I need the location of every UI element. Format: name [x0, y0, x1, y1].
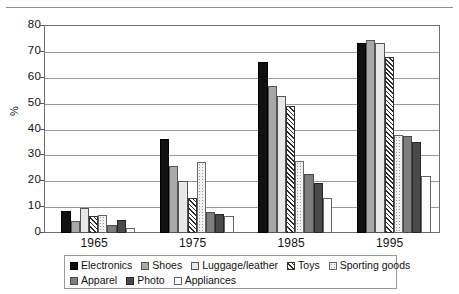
legend-label: Photo — [137, 275, 164, 286]
bar-group-1985 — [258, 26, 332, 233]
bar-1985-apparel — [304, 174, 313, 234]
x-axis-label-1965: 1965 — [45, 236, 144, 250]
legend-item-electronics[interactable]: Electronics — [70, 260, 132, 271]
y-tick-label-10: 10 — [1, 200, 41, 211]
legend-item-toys[interactable]: Toys — [287, 260, 320, 271]
bar-1975-electronics — [160, 139, 169, 233]
bar-1965-sporting-goods — [98, 215, 107, 233]
bar-group-1975 — [160, 26, 234, 233]
legend-swatch-icon — [141, 262, 149, 270]
bar-1965-photo — [117, 220, 126, 233]
legend-item-appliances[interactable]: Appliances — [174, 275, 236, 286]
bar-1975-appliances — [224, 216, 233, 233]
chart-legend: ElectronicsShoesLuggage/leatherToysSport… — [64, 255, 397, 289]
legend-swatch-icon — [174, 277, 182, 285]
legend-label: Luggage/leather — [202, 260, 278, 271]
legend-label: Sporting goods — [340, 260, 411, 271]
bar-1985-luggage-leather — [277, 96, 286, 233]
legend-label: Appliances — [185, 275, 236, 286]
bar-1965-appliances — [126, 228, 135, 233]
bar-1995-apparel — [403, 136, 412, 233]
legend-label: Electronics — [81, 260, 132, 271]
x-axis-label-1985: 1985 — [242, 236, 341, 250]
legend-item-luggage-leather[interactable]: Luggage/leather — [191, 260, 278, 271]
legend-row-1: ElectronicsShoesLuggage/leatherToysSport… — [70, 258, 392, 273]
bar-1965-toys — [89, 216, 98, 233]
bar-1965-apparel — [107, 225, 116, 233]
bar-1985-photo — [314, 183, 323, 233]
y-tick-label-70: 70 — [1, 45, 41, 56]
bar-1965-luggage-leather — [80, 208, 89, 233]
legend-item-shoes[interactable]: Shoes — [141, 260, 182, 271]
legend-label: Apparel — [81, 275, 117, 286]
top-divider — [6, 7, 453, 8]
bar-1975-luggage-leather — [178, 181, 187, 233]
legend-row-2: ApparelPhotoAppliances — [70, 273, 392, 288]
y-tick-label-50: 50 — [1, 97, 41, 108]
bar-1985-sporting-goods — [295, 161, 304, 233]
bar-1995-appliances — [421, 176, 430, 233]
bar-1965-shoes — [71, 221, 80, 233]
legend-label: Toys — [298, 260, 320, 271]
legend-swatch-icon — [126, 277, 134, 285]
x-axis-labels: 1965197519851995 — [45, 236, 439, 252]
legend-label: Shoes — [152, 260, 182, 271]
legend-swatch-icon — [70, 277, 78, 285]
legend-item-apparel[interactable]: Apparel — [70, 275, 117, 286]
bar-group-1965 — [61, 26, 135, 233]
legend-swatch-icon — [329, 262, 337, 270]
y-tick-label-60: 60 — [1, 71, 41, 82]
bar-1975-sporting-goods — [197, 162, 206, 233]
y-tick-label-40: 40 — [1, 123, 41, 134]
y-tick-label-0: 0 — [1, 226, 41, 237]
x-axis-label-1975: 1975 — [144, 236, 243, 250]
bar-1985-toys — [286, 106, 295, 233]
bar-group-1995 — [357, 26, 431, 233]
bars-container — [45, 26, 439, 233]
legend-swatch-icon — [191, 262, 199, 270]
legend-swatch-icon — [287, 262, 295, 270]
bar-chart: % 01020304050607080 1965197519851995 Ele… — [0, 0, 459, 294]
bar-1995-photo — [412, 142, 421, 233]
bar-1985-shoes — [268, 86, 277, 233]
bar-1995-electronics — [357, 43, 366, 233]
y-tick-label-20: 20 — [1, 174, 41, 185]
y-axis-ticks: 01020304050607080 — [0, 25, 41, 233]
x-axis-label-1995: 1995 — [341, 236, 440, 250]
bar-1995-luggage-leather — [375, 43, 384, 233]
y-tick-label-30: 30 — [1, 148, 41, 159]
bar-1975-apparel — [206, 212, 215, 233]
bar-1975-photo — [215, 214, 224, 233]
bar-1985-electronics — [258, 62, 267, 233]
bar-1985-appliances — [323, 198, 332, 233]
legend-item-sporting-goods[interactable]: Sporting goods — [329, 260, 411, 271]
bar-1975-toys — [188, 198, 197, 233]
legend-swatch-icon — [70, 262, 78, 270]
bar-1995-sporting-goods — [394, 135, 403, 233]
bar-1995-shoes — [366, 40, 375, 233]
legend-item-photo[interactable]: Photo — [126, 275, 164, 286]
bar-1965-electronics — [61, 211, 70, 233]
bar-1995-toys — [385, 57, 394, 233]
bar-1975-shoes — [169, 166, 178, 233]
y-tick-label-80: 80 — [1, 19, 41, 30]
